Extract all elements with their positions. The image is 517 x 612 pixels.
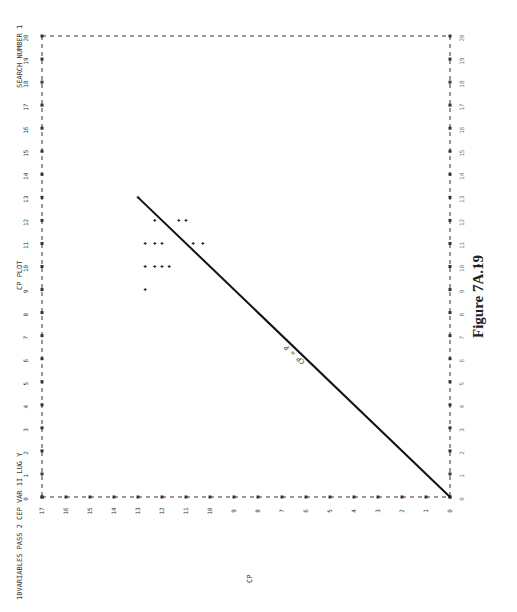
p-tick-label-right: 19 [458, 57, 465, 65]
header-right-label: SEARCH NUMBER 1 [16, 25, 24, 88]
data-point-plus [153, 219, 156, 222]
p-tick-label-left: 6 [22, 359, 29, 363]
data-point-plus [177, 219, 180, 222]
cp-tick-label: 11 [182, 507, 189, 515]
p-tick-label-right: 0 [458, 497, 465, 501]
axis-ticks: 0011223344556677889910101111121213131414… [22, 34, 465, 515]
p-tick-label-right: 3 [458, 428, 465, 432]
cp-tick-label: 14 [110, 507, 117, 515]
cp-tick-label: 15 [86, 507, 93, 515]
cp-tick-label: 12 [158, 507, 165, 515]
cp-tick-label: 17 [38, 507, 45, 515]
cp-tick-label: 3 [374, 509, 381, 513]
data-point-plus [153, 265, 156, 268]
data-point-plus [201, 242, 204, 245]
data-point-plus [185, 219, 188, 222]
p-tick-label-right: 6 [458, 359, 465, 363]
p-tick-label-right: 11 [458, 241, 465, 249]
plot-frame [42, 36, 450, 497]
cp-tick-label: 2 [398, 509, 405, 513]
p-tick-label-left: 11 [22, 241, 29, 249]
p-tick-label-left: 17 [22, 103, 29, 111]
cp-tick-label: 10 [206, 507, 213, 515]
p-tick-label-right: 12 [458, 218, 465, 226]
p-tick-label-left: 8 [22, 312, 29, 316]
cp-tick-label: 7 [278, 509, 285, 513]
data-point-plus [161, 242, 164, 245]
p-tick-label-left: 15 [22, 149, 29, 157]
p-tick-label-left: 5 [22, 382, 29, 386]
p-tick-label-left: 4 [22, 405, 29, 409]
cp-tick-label: 4 [350, 509, 357, 513]
cp-tick-label: 6 [302, 509, 309, 513]
p-tick-label-right: 13 [458, 195, 465, 203]
p-tick-label-right: 4 [458, 405, 465, 409]
cp-tick-label: 5 [326, 509, 333, 513]
data-point-plus [153, 242, 156, 245]
cp-axis-label: CP [246, 575, 254, 583]
cp-tick-label: 8 [254, 509, 261, 513]
p-tick-label-right: 8 [458, 312, 465, 316]
cp-tick-label: 9 [230, 509, 237, 513]
p-tick-label-right: 10 [458, 265, 465, 273]
p-tick-label-left: 7 [22, 335, 29, 339]
p-tick-label-right: 15 [458, 149, 465, 157]
p-tick-label-right: 14 [458, 172, 465, 180]
p-tick-label-right: 9 [458, 289, 465, 293]
p-tick-label-right: 5 [458, 382, 465, 386]
p-tick-label-right: 2 [458, 451, 465, 455]
figure-caption: Figure 7A.19 [470, 255, 487, 338]
cp-tick-label: 1 [422, 509, 429, 513]
data-points [137, 196, 205, 291]
p-tick-label-left: 14 [22, 172, 29, 180]
data-point-plus [144, 265, 147, 268]
data-point-plus [144, 288, 147, 291]
data-point-plus [192, 242, 195, 245]
p-tick-label-right: 7 [458, 335, 465, 339]
data-point-plus [161, 265, 164, 268]
data-point-plus [144, 242, 147, 245]
p-tick-label-right: 17 [458, 103, 465, 111]
p-tick-label-right: 20 [458, 34, 465, 42]
header-left-label: 10VARIABLES PASS 2 CEP VAR 1I LUG Y [16, 452, 24, 600]
p-tick-label-right: 16 [458, 126, 465, 134]
p-tick-label-left: 16 [22, 126, 29, 134]
p-tick-label-right: 18 [458, 80, 465, 88]
cp-plot-chart: 0011223344556677889910101111121213131414… [0, 0, 517, 612]
data-point-plus [168, 265, 171, 268]
cp-tick-label: 13 [134, 507, 141, 515]
p-tick-label-right: 1 [458, 474, 465, 478]
reference-line-cp-equals-p [138, 197, 450, 497]
cp-tick-label: 16 [62, 507, 69, 515]
p-tick-label-left: 12 [22, 218, 29, 226]
p-tick-label-left: 3 [22, 428, 29, 432]
p-tick-label-left: 13 [22, 195, 29, 203]
chart-title: CP PLOT [16, 260, 24, 290]
cp-tick-label: 0 [446, 509, 453, 513]
